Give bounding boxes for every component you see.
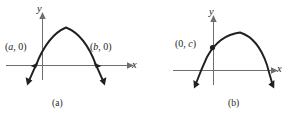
panel-b-graph: [143, 0, 287, 119]
x-axis-a: [6, 62, 134, 68]
panel-caption-a: (a): [52, 99, 63, 109]
parabola-curve-b: [195, 33, 273, 87]
right-root-rest: , 0): [98, 41, 111, 52]
math-figure: y x (a, 0) (b, 0) (a): [0, 0, 287, 119]
y-intercept-dot-b: [210, 45, 215, 50]
panel-caption-b: (b): [228, 99, 239, 109]
right-root-label-a: (b, 0): [90, 42, 112, 52]
y-intercept-open: (0,: [175, 38, 188, 49]
figure-panel-a: y x (a, 0) (b, 0) (a): [0, 0, 143, 119]
x-axis-label-b: x: [277, 64, 282, 75]
left-root-rest: , 0): [13, 41, 26, 52]
y-intercept-rest: ): [193, 38, 196, 49]
y-intercept-label-b: (0, c): [175, 39, 196, 49]
y-axis-label-a: y: [37, 4, 42, 15]
parabola-curve-a: [28, 28, 104, 84]
x-axis-label-a: x: [132, 60, 137, 71]
x-axis-b: [173, 67, 278, 73]
panel-a-graph: [0, 0, 143, 119]
y-axis-label-b: y: [209, 7, 214, 18]
left-root-label-a: (a, 0): [5, 42, 27, 52]
figure-panel-b: y x (0, c) (b): [143, 0, 287, 119]
